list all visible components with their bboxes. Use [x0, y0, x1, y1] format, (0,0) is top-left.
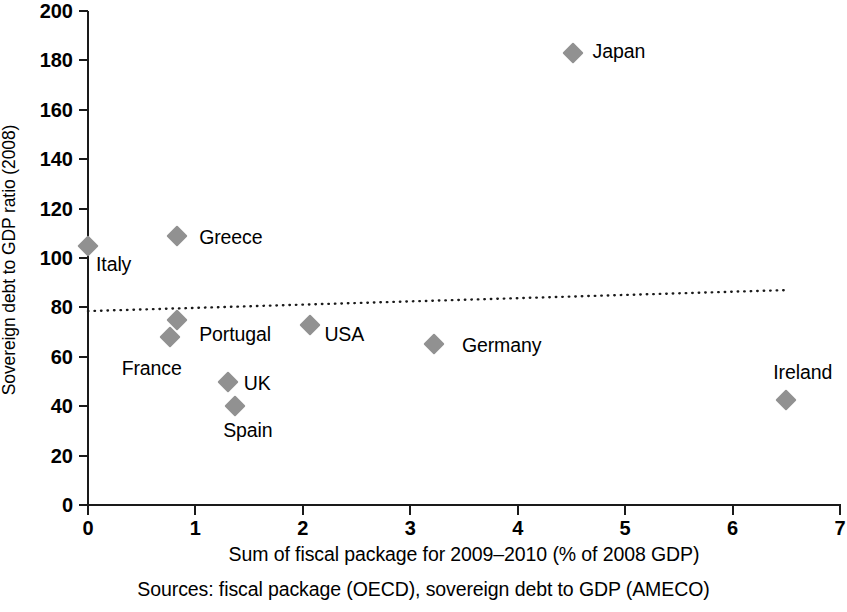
data-point-marker[interactable]: [776, 389, 797, 410]
source-note: Sources: fiscal package (OECD), sovereig…: [0, 578, 847, 601]
x-tick-label: 2: [280, 518, 326, 538]
x-tick-mark: [517, 506, 519, 515]
y-tick-mark: [79, 208, 88, 210]
y-tick-mark: [79, 455, 88, 457]
x-tick-mark: [732, 506, 734, 515]
y-tick-label: 140: [0, 149, 73, 169]
y-tick-mark: [79, 158, 88, 160]
y-tick-mark: [79, 306, 88, 308]
scatter-chart-figure: Sovereign debt to GDP ratio (2008) 02040…: [0, 0, 847, 612]
y-tick-mark: [79, 405, 88, 407]
x-tick-mark: [624, 506, 626, 515]
data-point-marker[interactable]: [300, 314, 321, 335]
x-tick-mark: [839, 506, 841, 515]
x-axis-title: Sum of fiscal package for 2009–2010 (% o…: [88, 543, 840, 566]
y-tick-label: 120: [0, 199, 73, 219]
x-tick-mark: [409, 506, 411, 515]
data-point-label: France: [122, 359, 182, 379]
x-tick-label: 6: [710, 518, 756, 538]
data-point-marker[interactable]: [423, 334, 444, 355]
x-tick-label: 4: [495, 518, 541, 538]
data-point-label: USA: [324, 325, 364, 345]
x-tick-mark: [87, 506, 89, 515]
y-tick-mark: [79, 109, 88, 111]
y-tick-label: 180: [0, 50, 73, 70]
x-tick-label: 5: [602, 518, 648, 538]
y-tick-mark: [79, 10, 88, 12]
y-tick-label: 40: [0, 396, 73, 416]
data-point-label: Greece: [199, 228, 262, 248]
data-point-marker[interactable]: [562, 42, 583, 63]
data-point-label: Germany: [462, 336, 542, 356]
x-axis-line: [87, 504, 841, 506]
y-tick-mark: [79, 356, 88, 358]
data-point-marker[interactable]: [225, 396, 246, 417]
y-tick-label: 160: [0, 100, 73, 120]
data-point-label: Ireland: [773, 363, 832, 383]
data-point-marker[interactable]: [167, 225, 188, 246]
y-tick-label: 80: [0, 297, 73, 317]
y-tick-mark: [79, 257, 88, 259]
data-point-label: UK: [244, 374, 271, 394]
data-point-label: Spain: [223, 421, 272, 441]
data-point-label: Japan: [593, 42, 646, 62]
data-point-marker[interactable]: [217, 371, 238, 392]
x-tick-label: 1: [172, 518, 218, 538]
data-point-label: Portugal: [199, 325, 271, 345]
x-tick-label: 3: [387, 518, 433, 538]
y-tick-label: 60: [0, 347, 73, 367]
y-tick-label: 0: [0, 495, 73, 515]
x-tick-mark: [194, 506, 196, 515]
data-point-label: Italy: [96, 255, 131, 275]
y-tick-label: 100: [0, 248, 73, 268]
y-tick-mark: [79, 59, 88, 61]
y-tick-label: 200: [0, 1, 73, 21]
y-tick-label: 20: [0, 446, 73, 466]
x-tick-mark: [302, 506, 304, 515]
x-tick-label: 7: [817, 518, 847, 538]
x-tick-label: 0: [65, 518, 111, 538]
